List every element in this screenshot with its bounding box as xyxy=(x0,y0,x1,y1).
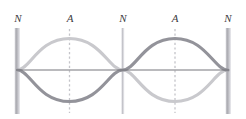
node-label-left: N xyxy=(14,13,21,24)
node-label-right: N xyxy=(224,13,231,24)
antinode-label-right: A xyxy=(172,13,179,24)
standing-wave-figure: N A N A N xyxy=(0,0,246,119)
antinode-label-left: A xyxy=(67,13,74,24)
node-label-center: N xyxy=(119,13,126,24)
